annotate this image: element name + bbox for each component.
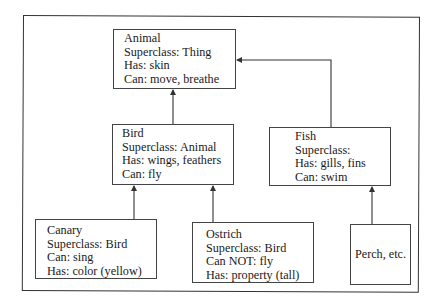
node-can: Can: move, breathe bbox=[124, 73, 235, 87]
node-has: Has: wings, feathers bbox=[122, 154, 233, 168]
node-title: Canary bbox=[47, 224, 156, 238]
node-title: Bird bbox=[122, 127, 233, 141]
node-title: Fish bbox=[295, 130, 390, 144]
node-can: Can: swim bbox=[295, 171, 390, 185]
node-superclass: Superclass: bbox=[295, 144, 390, 158]
node-superclass: Superclass: Thing bbox=[124, 46, 235, 60]
node-has: Has: color (yellow) bbox=[47, 265, 156, 279]
node-can: Can: fly bbox=[122, 168, 233, 182]
node-superclass: Superclass: Animal bbox=[122, 141, 233, 155]
node-perch: Perch, etc. bbox=[350, 224, 411, 285]
node-title: Animal bbox=[124, 32, 235, 46]
node-ostrich: Ostrich Superclass: Bird Can NOT: fly Ha… bbox=[192, 222, 314, 283]
node-fish: Fish Superclass: Has: gills, fins Can: s… bbox=[269, 127, 391, 186]
node-cannot: Can NOT: fly bbox=[206, 255, 313, 269]
node-canary: Canary Superclass: Bird Can: sing Has: c… bbox=[35, 219, 157, 279]
node-can: Can: sing bbox=[47, 251, 156, 265]
node-superclass: Superclass: Bird bbox=[206, 242, 313, 256]
node-superclass: Superclass: Bird bbox=[47, 238, 156, 252]
node-bird: Bird Superclass: Animal Has: wings, feat… bbox=[112, 124, 234, 185]
node-has: Has: gills, fins bbox=[295, 157, 390, 171]
node-animal: Animal Superclass: Thing Has: skin Can: … bbox=[113, 29, 236, 89]
node-title: Ostrich bbox=[206, 228, 313, 242]
node-has: Has: property (tall) bbox=[206, 269, 313, 283]
node-title: Perch, etc. bbox=[355, 248, 406, 262]
node-has: Has: skin bbox=[124, 59, 235, 73]
